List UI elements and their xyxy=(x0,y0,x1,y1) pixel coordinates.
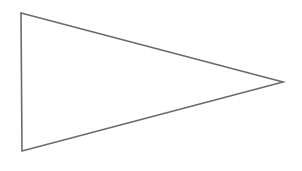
drawing-canvas xyxy=(0,0,302,171)
triangle-figure xyxy=(0,0,302,171)
